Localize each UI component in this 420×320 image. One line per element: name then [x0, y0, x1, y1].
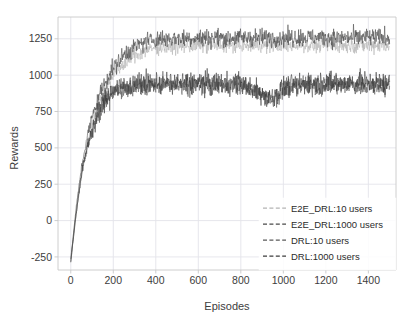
y-tick-label: 500 [34, 141, 52, 153]
y-tick-label: 1000 [29, 69, 53, 81]
x-tick-label: 0 [68, 274, 74, 286]
y-tick-label: 250 [34, 178, 52, 190]
x-tick-label: 1400 [357, 274, 381, 286]
x-tick-label: 200 [105, 274, 123, 286]
legend-label-1: E2E_DRL:1000 users [291, 219, 383, 230]
legend-label-2: DRL:10 users [291, 235, 349, 246]
x-tick-label: 1000 [272, 274, 296, 286]
y-tick-label: 0 [46, 214, 52, 226]
x-tick-label: 1200 [314, 274, 338, 286]
rewards-vs-episodes-chart: 0200400600800100012001400 -2500250500750… [0, 0, 420, 320]
x-axis-title: Episodes [204, 300, 250, 312]
legend-label-3: DRL:1000 users [291, 251, 360, 262]
chart-legend: E2E_DRL:10 usersE2E_DRL:1000 usersDRL:10… [259, 198, 396, 270]
y-tick-label: 750 [34, 105, 52, 117]
x-tick-label: 800 [232, 274, 250, 286]
chart-figure: 0200400600800100012001400 -2500250500750… [0, 0, 420, 320]
x-tick-label: 600 [190, 274, 208, 286]
y-axis-title: Rewards [8, 126, 20, 170]
x-tick-label: 400 [147, 274, 165, 286]
legend-label-0: E2E_DRL:10 users [291, 203, 373, 214]
y-tick-label: -250 [31, 251, 52, 263]
y-tick-label: 1250 [29, 32, 53, 44]
